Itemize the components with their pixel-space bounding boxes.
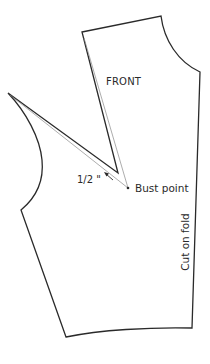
front-label: FRONT bbox=[106, 76, 141, 87]
bodice-outline bbox=[8, 16, 200, 337]
cut-on-fold-label: Cut on fold bbox=[179, 207, 191, 277]
bust-point-label: Bust point bbox=[135, 182, 189, 194]
bust-point-marker bbox=[127, 187, 130, 190]
measurement-label: 1/2 " bbox=[77, 174, 101, 185]
measurement-arrow-icon bbox=[104, 172, 113, 180]
dart-guide-upper bbox=[84, 38, 128, 188]
